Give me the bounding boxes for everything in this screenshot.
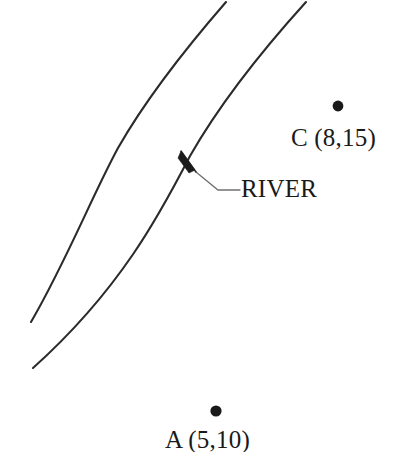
- point-marker-a: [210, 405, 221, 416]
- river-diagram-canvas: [0, 0, 396, 452]
- river-diagram-figure: RIVER C (8,15) A (5,10): [0, 0, 396, 452]
- point-label-c: C (8,15): [291, 125, 376, 150]
- point-label-a: A (5,10): [165, 427, 250, 452]
- river-label-leader-line: [196, 172, 240, 190]
- river-label: RIVER: [241, 176, 317, 201]
- point-marker-c: [333, 101, 344, 112]
- river-left-bank-path: [31, 2, 226, 322]
- river-pointer-arrowhead-icon: [178, 151, 195, 173]
